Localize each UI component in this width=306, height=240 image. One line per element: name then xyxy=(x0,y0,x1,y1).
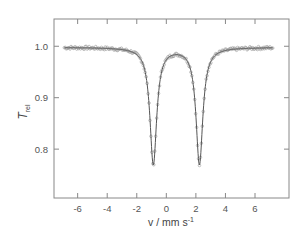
fit-curve xyxy=(64,48,272,165)
x-tick-label: 0 xyxy=(164,203,169,214)
y-axis-ticks: 0.80.91.0 xyxy=(35,41,289,155)
y-axis-label-subscript: rel xyxy=(24,104,31,112)
plot-frame xyxy=(54,19,289,198)
x-tick-label: -2 xyxy=(133,203,141,214)
y-tick-label: 0.9 xyxy=(35,92,48,103)
x-tick-label: 4 xyxy=(223,203,228,214)
y-tick-label: 1.0 xyxy=(35,41,48,52)
x-tick-label: -6 xyxy=(73,203,81,214)
y-axis-label: Trel xyxy=(16,104,31,120)
x-tick-label: 2 xyxy=(193,203,198,214)
data-markers xyxy=(63,45,274,167)
x-axis-label: v / mm s-1 xyxy=(148,216,194,228)
mossbauer-spectrum-chart: -6-4-20246 0.80.91.0 v / mm s-1 Trel xyxy=(0,0,306,240)
x-tick-label: -4 xyxy=(103,203,111,214)
y-tick-label: 0.8 xyxy=(35,144,48,155)
x-tick-label: 6 xyxy=(252,203,257,214)
x-axis-label-superscript: -1 xyxy=(188,216,194,223)
